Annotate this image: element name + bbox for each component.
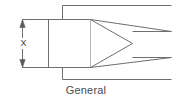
upper-step-line-group bbox=[63, 6, 172, 20]
dimension-label: X bbox=[15, 38, 32, 49]
lower-step-line-group bbox=[63, 68, 172, 80]
upper-step-line bbox=[63, 6, 172, 20]
technical-drawing-figure: X General bbox=[0, 0, 172, 106]
body-rectangle bbox=[49, 20, 91, 68]
dimension-arrowhead-bottom bbox=[20, 60, 25, 68]
figure-caption: General bbox=[0, 84, 172, 97]
lower-step-line bbox=[63, 68, 172, 80]
right-reference-lines-group bbox=[133, 32, 172, 58]
triangle-point bbox=[91, 20, 133, 68]
dimension-arrowhead-top bbox=[20, 20, 25, 28]
